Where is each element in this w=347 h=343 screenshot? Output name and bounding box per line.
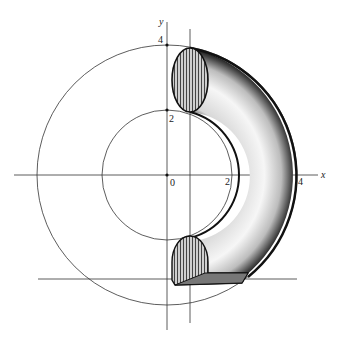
top-cross-section [172, 48, 208, 112]
origin-dot [165, 173, 168, 176]
y-axis-label: y [158, 16, 164, 27]
y-tick-4-dot [165, 43, 168, 46]
x-tick-2-label: 2 [225, 176, 230, 187]
y-tick-4-label: 4 [158, 34, 163, 45]
y-tick-2-label: 2 [169, 113, 174, 124]
x-axis-label: x [320, 169, 326, 180]
origin-label: 0 [170, 177, 175, 188]
x-tick-4-label: 4 [298, 176, 303, 187]
y-tick-2-dot [165, 108, 168, 111]
torus-diagram: y x 0 2 4 2 4 [0, 0, 347, 343]
